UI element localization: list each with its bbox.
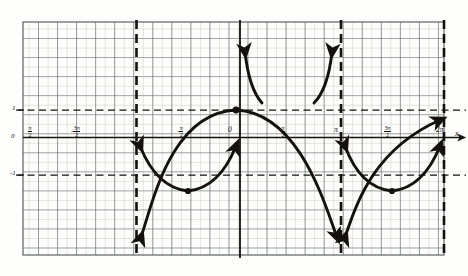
- xtick-1-denominator: 2: [28, 132, 32, 138]
- graph-figure: 1 0 -1 π2 -3π2 -π2 0 π2 π 3π2 2π x: [0, 0, 468, 276]
- xtick-label-2: -3π2: [71, 125, 80, 139]
- xtick-5-numerator: π: [281, 125, 285, 132]
- y-label-zero: 0: [11, 133, 15, 140]
- y-label-minus-one: -1: [10, 170, 16, 177]
- xtick-1-numerator: π: [28, 125, 32, 132]
- xtick-7-denominator: 2: [384, 132, 391, 138]
- xtick-2-numerator: 3π: [73, 125, 80, 132]
- xtick-3-numerator: π: [179, 125, 183, 132]
- vertex-dot-right: [389, 188, 395, 194]
- xtick-label-7: 3π2: [384, 125, 391, 139]
- vertex-dot-center: [233, 107, 240, 114]
- xtick-label-6: π: [334, 126, 338, 134]
- xtick-label-1: π2: [28, 125, 32, 139]
- xtick-label-8: 2π: [436, 126, 444, 134]
- xtick-label-3: -π2: [177, 125, 183, 139]
- grid-major: [23, 22, 444, 255]
- xtick-label-5: π2: [281, 125, 285, 139]
- xtick-5-denominator: 2: [281, 132, 285, 138]
- xtick-2-denominator: 2: [73, 132, 80, 138]
- xtick-3-denominator: 2: [179, 132, 183, 138]
- y-label-one: 1: [12, 105, 16, 112]
- x-axis-name-label: x: [455, 130, 458, 138]
- vertex-dot-left: [185, 188, 191, 194]
- xtick-label-4-origin: 0: [228, 126, 232, 134]
- xtick-7-numerator: 3π: [384, 125, 391, 132]
